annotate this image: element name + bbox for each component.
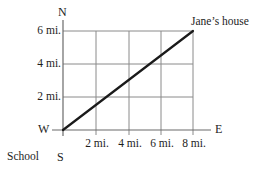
coordinate-grid-figure: N S W E School Jane’s house 6 mi. 4 mi. … xyxy=(0,0,265,171)
annotation-janes-house: Jane’s house xyxy=(191,16,249,28)
compass-label-east: E xyxy=(215,123,222,135)
compass-label-north: N xyxy=(58,6,67,18)
x-axis-tick-label-4mi: 4 mi. xyxy=(112,138,148,150)
annotation-school: School xyxy=(7,151,39,163)
y-axis-tick-label-4mi: 4 mi. xyxy=(37,58,61,70)
compass-label-south: S xyxy=(57,151,64,163)
x-axis-tick-label-2mi: 2 mi. xyxy=(79,138,115,150)
x-axis-tick-label-6mi: 6 mi. xyxy=(144,138,180,150)
route-line-school-to-janes-house xyxy=(63,31,193,130)
y-axis-tick-label-2mi: 2 mi. xyxy=(37,91,61,103)
compass-label-west: W xyxy=(38,123,49,135)
y-axis-tick-label-6mi: 6 mi. xyxy=(37,25,61,37)
x-axis-tick-label-8mi: 8 mi. xyxy=(176,138,212,150)
